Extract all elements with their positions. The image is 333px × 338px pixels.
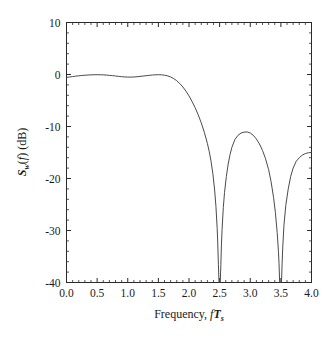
x-tick-label: 0.5 (90, 287, 105, 299)
x-axis-title: Frequency, fTs (154, 307, 224, 323)
y-tick-label: -30 (45, 225, 61, 237)
x-tick-label: 1.5 (151, 287, 166, 299)
y-tick-label: 10 (49, 17, 61, 29)
spectrum-plot: 0.00.51.01.52.02.53.03.54.0 100-10-20-30… (0, 0, 333, 338)
y-tick-label: -40 (45, 277, 61, 289)
x-tick-label: 3.5 (274, 287, 289, 299)
x-tick-label: 1.0 (121, 287, 136, 299)
figure-container: 0.00.51.01.52.02.53.03.54.0 100-10-20-30… (0, 0, 333, 338)
x-tick-label: 3.0 (243, 287, 258, 299)
x-axis-tick-labels: 0.00.51.01.52.02.53.03.54.0 (59, 287, 319, 299)
y-tick-label: -10 (45, 121, 61, 133)
y-tick-label: 0 (55, 69, 61, 81)
svg-text:Frequency, fTs: Frequency, fTs (154, 307, 224, 323)
x-tick-label: 2.5 (212, 287, 227, 299)
x-tick-label: 0.0 (59, 287, 74, 299)
y-tick-label: -20 (45, 173, 61, 185)
x-tick-label: 4.0 (304, 287, 319, 299)
x-tick-label: 2.0 (182, 287, 197, 299)
